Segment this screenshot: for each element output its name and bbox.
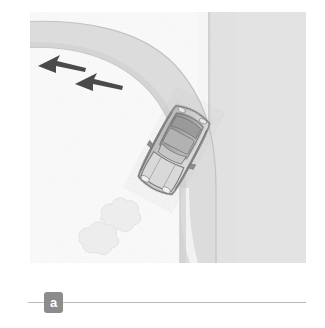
building-block — [208, 12, 306, 263]
figure-label-badge: a — [44, 292, 63, 313]
caption-divider-rule — [28, 302, 306, 303]
figure-caption-row: a — [28, 292, 306, 314]
illustration-panel — [30, 12, 306, 263]
scene-illustration — [30, 12, 306, 263]
figure-root: a — [0, 0, 325, 328]
